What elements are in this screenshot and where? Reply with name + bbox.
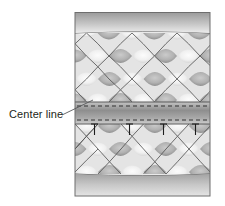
lower-quilt-section [53, 119, 223, 179]
top-plain-band [75, 13, 210, 33]
upper-quilt-section [64, 27, 223, 108]
center-line-band [75, 102, 210, 124]
quilted-panel-illustration: Center line [0, 0, 225, 206]
center-line-label: Center line [9, 108, 63, 120]
bottom-plain-band [75, 174, 210, 196]
figure-container: Center line [0, 0, 225, 206]
